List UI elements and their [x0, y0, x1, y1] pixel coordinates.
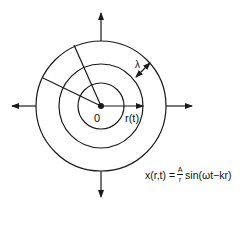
lambda-arrow-outer: [143, 63, 150, 70]
radius-line-1: [74, 45, 101, 106]
source-point: [98, 103, 104, 109]
radius-label: r(t): [125, 113, 139, 124]
equation-fraction: A r: [177, 166, 183, 183]
lambda-arrow-inner: [136, 70, 143, 77]
equation-rhs: sin(ωt−kr): [185, 169, 231, 181]
equation-lhs: x(r,t) =: [145, 169, 175, 181]
radius-line-2: [43, 78, 101, 106]
origin-label: 0: [94, 113, 100, 124]
fraction-denominator: r: [179, 176, 181, 183]
fraction-numerator: A: [178, 166, 183, 173]
wave-equation: x(r,t) = A r sin(ωt−kr): [145, 166, 231, 183]
wavelength-label: λ: [135, 60, 140, 70]
